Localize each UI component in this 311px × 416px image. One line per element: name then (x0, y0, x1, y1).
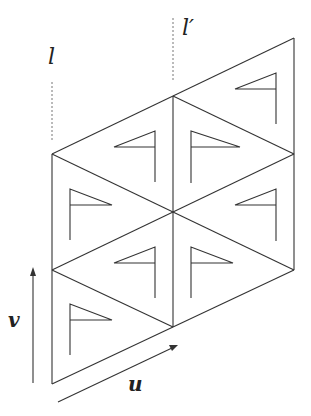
flag-icon (235, 73, 276, 124)
label-l: l (48, 44, 55, 69)
mirror-lines (52, 18, 173, 140)
flag-icon (114, 131, 155, 182)
lattice-diagram (0, 0, 311, 416)
flag-icon (114, 247, 155, 298)
flag-icon (70, 189, 112, 240)
vector-v-arrow (30, 267, 36, 383)
label-v: v (8, 308, 20, 332)
label-l-prime: l′ (182, 15, 194, 40)
flag-icon (191, 247, 233, 298)
vector-u-arrow (58, 345, 178, 402)
arrowhead-icon (30, 267, 36, 276)
flag-icon (235, 189, 276, 241)
arrowhead-icon (169, 345, 178, 351)
lattice-edges (52, 38, 294, 384)
flag-icon (70, 304, 112, 355)
flag-icon (191, 131, 240, 183)
label-u: u (128, 372, 143, 396)
